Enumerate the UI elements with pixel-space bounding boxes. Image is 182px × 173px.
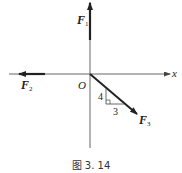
label-x-axis: x <box>172 68 177 79</box>
label-triangle-horizontal: 3 <box>113 107 118 117</box>
right-angle-mark <box>106 100 110 104</box>
label-f2: F2 <box>21 79 33 93</box>
label-triangle-vertical: 4 <box>98 92 103 102</box>
label-f1: F1 <box>77 14 89 28</box>
label-origin: O <box>78 80 86 91</box>
label-f3: F3 <box>139 114 151 128</box>
figure-caption: 图 3. 14 <box>0 157 182 172</box>
force-diagram: F1 F2 F3 x O 4 3 图 3. 14 <box>0 0 182 173</box>
